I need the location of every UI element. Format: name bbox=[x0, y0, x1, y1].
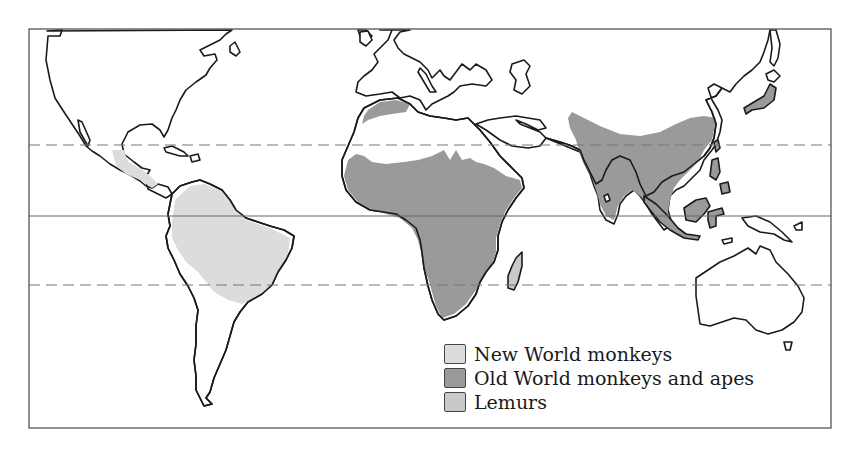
legend-swatch-old-world bbox=[444, 368, 466, 388]
legend: New World monkeys Old World monkeys and … bbox=[444, 342, 754, 414]
japan bbox=[744, 84, 776, 114]
legend-label: Old World monkeys and apes bbox=[474, 367, 754, 389]
legend-item-new-world: New World monkeys bbox=[444, 342, 754, 366]
philippines bbox=[710, 158, 720, 180]
africa-central-old-world-range bbox=[344, 150, 522, 318]
legend-label: Lemurs bbox=[474, 391, 547, 413]
sulawesi bbox=[708, 208, 724, 228]
legend-swatch-lemurs bbox=[444, 392, 466, 412]
legend-swatch-new-world bbox=[444, 344, 466, 364]
tasmania bbox=[784, 342, 792, 350]
timor bbox=[722, 238, 732, 244]
legend-item-lemurs: Lemurs bbox=[444, 390, 754, 414]
kamchatka-sakhalin bbox=[770, 30, 780, 66]
borneo bbox=[684, 198, 710, 222]
sri-lanka bbox=[604, 194, 610, 202]
cuba bbox=[164, 146, 188, 156]
new-guinea bbox=[742, 216, 792, 242]
arabia-caspian bbox=[510, 60, 530, 94]
legend-item-old-world: Old World monkeys and apes bbox=[444, 366, 754, 390]
newfoundland bbox=[230, 42, 240, 56]
australia bbox=[696, 246, 804, 334]
hokkaido bbox=[766, 70, 780, 82]
philippines-south bbox=[720, 182, 730, 194]
new-britain bbox=[794, 222, 802, 230]
europe bbox=[356, 30, 492, 110]
korea-russia-coast bbox=[722, 30, 770, 92]
taiwan bbox=[714, 140, 720, 152]
legend-label: New World monkeys bbox=[474, 343, 672, 365]
hispaniola bbox=[190, 154, 200, 162]
madagascar bbox=[508, 252, 522, 290]
